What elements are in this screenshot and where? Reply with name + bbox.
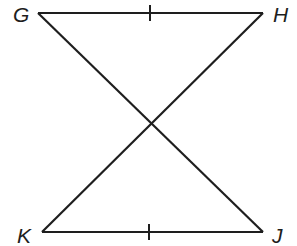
vertex-label-j: J	[271, 224, 283, 246]
geometry-diagram: G H K J	[0, 0, 297, 246]
vertex-label-k: K	[17, 224, 32, 246]
vertex-label-h: H	[273, 3, 289, 26]
vertex-label-g: G	[13, 3, 29, 26]
